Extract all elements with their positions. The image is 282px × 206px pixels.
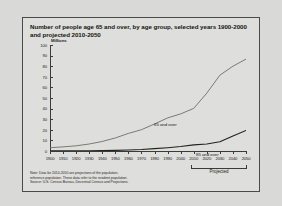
y-axis-tick-label: 0 [25,149,47,154]
y-axis-tick-label: 90 [25,53,47,58]
y-axis-tick-label: 50 [25,96,47,101]
x-axis-tick [141,151,142,154]
y-axis-tick-label: 40 [25,106,47,111]
x-axis-tick [115,151,116,154]
chart-footnote: Note: Data for 2010-2050 are projections… [30,171,210,185]
y-axis-tick-label: 60 [25,85,47,90]
chart-figure: Number of people age 65 and over, by age… [22,17,260,192]
x-axis-tick-label: 2050 [237,156,255,161]
y-axis-tick-label: 10 [25,138,47,143]
chart-title-line1: Number of people age 65 and over, by age… [30,23,247,30]
x-axis-tick [102,151,103,154]
x-axis-tick [89,151,90,154]
y-axis-tick-label: 100 [25,43,47,48]
series-line-65-and-over [50,59,246,148]
y-axis-tick-label: 70 [25,75,47,80]
chart-title: Number of people age 65 and over, by age… [30,23,252,39]
x-axis-tick [233,151,234,154]
x-axis-tick [128,151,129,154]
x-axis-tick [246,151,247,154]
series-line-85-and-over [50,130,246,150]
x-axis-tick [76,151,77,154]
x-axis-tick [155,151,156,154]
series-label-65-and-over: 65 and over [154,122,177,127]
x-axis-tick [168,151,169,154]
footnote-line-3: Source: U.S. Census Bureau, Decennial Ce… [30,180,210,185]
y-axis-unit-label: Millions [51,38,67,43]
y-axis-tick-label: 30 [25,117,47,122]
x-axis-tick [63,151,64,154]
x-axis-tick [220,151,221,154]
x-axis-tick [50,151,51,154]
y-axis-tick-label: 20 [25,128,47,133]
y-axis-tick-label: 80 [25,64,47,69]
plot-area [50,45,246,151]
x-axis-tick [194,151,195,154]
series-label-85-and-over: 85 and over [196,152,219,157]
x-axis-tick [181,151,182,154]
